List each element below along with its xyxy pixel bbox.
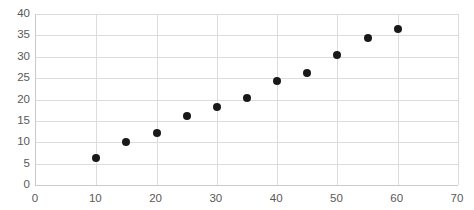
x-axis-tick-label: 10	[89, 193, 102, 205]
gridline-vertical	[277, 14, 278, 185]
data-point	[364, 34, 372, 42]
gridline-vertical	[337, 14, 338, 185]
data-point	[394, 25, 402, 33]
gridline-horizontal	[36, 14, 458, 15]
data-point	[213, 103, 221, 111]
gridline-horizontal	[36, 35, 458, 36]
x-axis-tick-label: 30	[209, 193, 222, 205]
gridline-horizontal	[36, 142, 458, 143]
x-axis-tick-label: 0	[32, 193, 38, 205]
data-point	[273, 77, 281, 85]
x-axis-tick-label: 20	[149, 193, 162, 205]
gridline-vertical	[217, 14, 218, 185]
x-axis-tick-label: 40	[270, 193, 283, 205]
x-axis-tick-label: 70	[451, 193, 464, 205]
x-axis-tick-labels: 010203040506070	[35, 193, 458, 209]
y-axis-tick-label: 40	[2, 8, 30, 20]
data-point	[243, 94, 251, 102]
data-point	[122, 138, 130, 146]
data-point	[183, 112, 191, 120]
gridline-horizontal	[36, 78, 458, 79]
data-point	[153, 129, 161, 137]
y-axis-tick-label: 25	[2, 72, 30, 84]
scatter-chart: 0510152025303540 010203040506070	[0, 0, 474, 210]
y-axis-tick-label: 15	[2, 115, 30, 127]
x-axis-tick-label: 60	[390, 193, 403, 205]
y-axis-tick-label: 10	[2, 137, 30, 149]
y-axis-tick-label: 5	[2, 158, 30, 170]
plot-area	[35, 14, 458, 186]
gridline-vertical	[157, 14, 158, 185]
data-point	[333, 51, 341, 59]
y-axis-tick-labels: 0510152025303540	[0, 14, 30, 186]
y-axis-tick-label: 20	[2, 94, 30, 106]
x-axis-tick-label: 50	[330, 193, 343, 205]
data-point	[92, 154, 100, 162]
y-axis-tick-label: 35	[2, 30, 30, 42]
data-point	[303, 69, 311, 77]
gridline-vertical	[398, 14, 399, 185]
gridline-horizontal	[36, 164, 458, 165]
y-axis-tick-label: 0	[2, 179, 30, 191]
gridline-horizontal	[36, 57, 458, 58]
gridline-horizontal	[36, 121, 458, 122]
gridline-vertical	[458, 14, 459, 185]
y-axis-tick-label: 30	[2, 51, 30, 63]
